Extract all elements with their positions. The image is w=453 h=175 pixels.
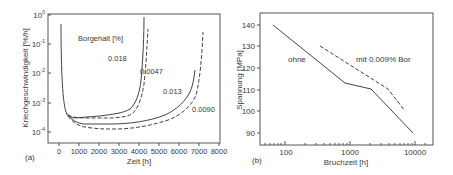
series-0-018 <box>61 17 144 118</box>
svg-text:0: 0 <box>57 147 61 156</box>
svg-text:100: 100 <box>33 9 45 20</box>
svg-text:1000: 1000 <box>341 148 359 157</box>
svg-text:4000: 4000 <box>131 147 148 156</box>
svg-text:140: 140 <box>242 21 256 30</box>
x-axis-label-b: Bruchzeit [h] <box>324 158 368 167</box>
panel-b: 90 100 110 120 130 140 100 1000 <box>235 13 433 167</box>
label-mit-bor: mit 0.009% Bor <box>356 55 411 64</box>
y-tick-labels-a: 100 10-1 10-2 10-3 10-4 <box>32 9 46 137</box>
svg-text:1000: 1000 <box>71 147 88 156</box>
svg-text:7000: 7000 <box>191 147 208 156</box>
label-ohne: ohne <box>288 55 306 64</box>
figure: 100 10-1 10-2 10-3 10-4 0 1000 2000 3000… <box>0 0 453 175</box>
svg-text:8000: 8000 <box>211 147 228 156</box>
svg-text:110: 110 <box>242 86 255 95</box>
x-ticks-b <box>265 141 425 145</box>
y-axis-label-b: Spannung [MPa] <box>235 50 244 110</box>
label-0-013: 0.013 <box>163 87 182 96</box>
series-labels-b: ohne mit 0.009% Bor <box>288 55 411 64</box>
series-0-0090 <box>68 32 203 129</box>
label-0-018: 0.018 <box>108 54 127 63</box>
panel-label-a: (a) <box>25 153 35 162</box>
svg-text:10-1: 10-1 <box>32 38 46 49</box>
svg-text:3000: 3000 <box>111 147 128 156</box>
label-0-0047: 0.0047 <box>140 67 163 76</box>
legend-title: Borgehalt [%] <box>78 34 123 43</box>
x-tick-labels-b: 100 1000 10000 <box>279 148 426 157</box>
plot-frame-b <box>260 13 433 145</box>
curves-b <box>273 25 413 133</box>
svg-text:10-3: 10-3 <box>32 97 46 108</box>
svg-text:6000: 6000 <box>171 147 188 156</box>
x-tick-labels-a: 0 1000 2000 3000 4000 5000 6000 7000 800… <box>57 147 227 156</box>
svg-text:10-4: 10-4 <box>32 126 46 137</box>
svg-text:90: 90 <box>246 129 255 138</box>
svg-text:5000: 5000 <box>151 147 168 156</box>
svg-text:2000: 2000 <box>91 147 108 156</box>
svg-text:10000: 10000 <box>404 148 427 157</box>
svg-text:130: 130 <box>242 42 256 51</box>
svg-text:100: 100 <box>279 148 293 157</box>
label-0-0090: 0.0090 <box>192 105 215 114</box>
svg-text:10-2: 10-2 <box>32 67 46 78</box>
series-0-013 <box>66 70 195 124</box>
y-axis-label-a: Kriechgeschwindigkeit [%/h] <box>21 28 30 128</box>
series-ohne <box>273 25 413 133</box>
panel-label-b: (b) <box>252 156 262 165</box>
x-axis-label-a: Zeit [h] <box>127 157 151 166</box>
panel-a: 100 10-1 10-2 10-3 10-4 0 1000 2000 3000… <box>21 9 227 166</box>
